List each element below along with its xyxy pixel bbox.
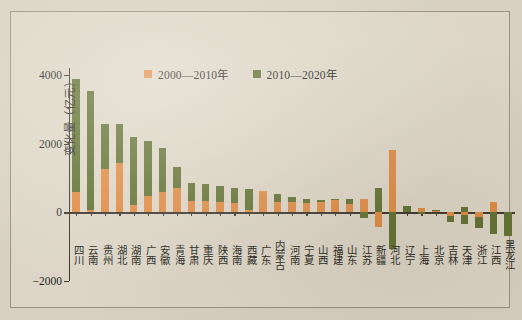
x-axis-category-label: 福建: [328, 226, 342, 284]
bar-segment-2000-2010: [173, 188, 180, 212]
bar-segment-2010-2020: [231, 188, 238, 203]
bar-segment-2010-2020: [346, 199, 353, 203]
bar-segment-2000-2010: [490, 202, 497, 213]
bar-segment-2000-2010: [389, 150, 396, 212]
legend-label: 2010—2020年: [267, 66, 338, 82]
x-axis-category-label: 甘肃: [184, 226, 198, 284]
bar-segment-2000-2010: [245, 210, 252, 212]
bar-segment-2010-2020-negative: [461, 215, 468, 224]
bar-segment-2000-2010: [432, 211, 439, 212]
x-axis-category-label: 新疆: [371, 226, 385, 284]
bar-segment-2000-2010: [274, 202, 281, 213]
bar-segment-2000-2010: [188, 201, 195, 212]
chart-legend: 2000—2010年 2010—2020年: [144, 66, 337, 82]
bar-segment-2010-2020: [188, 183, 195, 201]
x-axis-category-label: 山西: [314, 226, 328, 284]
bar-segment-2010-2020: [173, 167, 180, 188]
bar-segment-2010-2020: [317, 200, 324, 201]
x-axis-category-label: 青海: [170, 226, 184, 284]
x-axis-category-label: 陕西: [213, 226, 227, 284]
x-axis-category-label: 云南: [83, 226, 97, 284]
bar-segment-2010-2020-negative: [418, 212, 425, 213]
bar-segment-2010-2020: [202, 184, 209, 200]
y-axis-title: 变化量（亿元）: [61, 56, 77, 176]
bar-segment-2010-2020: [159, 148, 166, 192]
x-axis-category-label: 重庆: [198, 226, 212, 284]
legend-item-2010-2020: 2010—2020年: [253, 66, 338, 82]
bar-segment-2000-2010: [72, 192, 79, 213]
x-axis-category-label: 吉林: [443, 226, 457, 284]
bar-segment-2000-2010: [346, 204, 353, 213]
bar-segment-2000-2010: [259, 191, 266, 212]
bar-segment-2010-2020: [101, 124, 108, 169]
bar-segment-2010-2020-negative: [447, 216, 454, 221]
bar-segment-2010-2020: [130, 137, 137, 206]
bar-segment-2010-2020: [432, 210, 439, 211]
x-axis-category-label: 天津: [457, 226, 471, 284]
legend-label: 2000—2010年: [158, 66, 229, 82]
x-axis-category-label: 河南: [285, 226, 299, 284]
bar-segment-2000-2010: [87, 210, 94, 213]
x-axis-category-label: 内蒙古: [270, 226, 284, 284]
x-axis-category-label: 安徽: [155, 226, 169, 284]
x-axis-category-label: 江西: [486, 226, 500, 284]
bar-segment-2010-2020-negative: [360, 212, 367, 218]
y-axis-tick-label: 4000: [39, 69, 62, 81]
bar-segment-2010-2020: [144, 141, 151, 196]
y-axis-tick-label: −2000: [33, 275, 63, 287]
bar-segment-2010-2020: [331, 199, 338, 201]
bar-segment-2010-2020: [288, 197, 295, 202]
bar-segment-2000-2010: [231, 203, 238, 212]
x-axis-category-label: 湖北: [112, 226, 126, 284]
bar-segment-2000-2010: [101, 169, 108, 212]
y-axis-tick-label: 0: [56, 206, 62, 218]
legend-item-2000-2010: 2000—2010年: [144, 66, 229, 82]
bar-segment-2010-2020: [216, 186, 223, 202]
x-axis-category-label: 浙江: [472, 226, 486, 284]
bar-segment-2010-2020: [116, 124, 123, 163]
x-axis-category-label: 湖南: [127, 226, 141, 284]
square-swatch-icon: [144, 70, 152, 78]
bar-segment-2000-2010: [303, 203, 310, 213]
x-axis-category-label: 宁夏: [299, 226, 313, 284]
x-axis-category-label: 江苏: [357, 226, 371, 284]
bar-segment-2000-2010: [202, 201, 209, 212]
bar-segment-2010-2020: [274, 194, 281, 202]
bar-segment-2000-2010: [360, 199, 367, 212]
x-axis-category-label: 贵州: [98, 226, 112, 284]
bar-segment-2010-2020: [403, 206, 410, 212]
x-axis-category-label: 广东: [256, 226, 270, 284]
bar-segment-2000-2010: [331, 200, 338, 212]
x-axis-category-label: 河北: [386, 226, 400, 284]
bar-segment-2000-2010: [116, 163, 123, 212]
x-axis-category-label: 辽宁: [400, 226, 414, 284]
bar-segment-2000-2010: [317, 202, 324, 213]
x-axis-category-label: 山东: [342, 226, 356, 284]
x-axis-category-label: 广西: [141, 226, 155, 284]
x-axis-category-label: 北京: [429, 226, 443, 284]
chart-plate: 变化量（亿元） 2000—2010年 2010—2020年 400020000−…: [10, 11, 510, 308]
bar-segment-2010-2020: [303, 199, 310, 202]
x-axis-category-label: 黑龙江: [501, 226, 515, 284]
x-axis-category-label: 海南: [227, 226, 241, 284]
bar-segment-2000-2010-negative: [375, 212, 382, 226]
x-axis-category-label: 四川: [69, 226, 83, 284]
bar-segment-2000-2010: [159, 192, 166, 213]
x-axis-category-labels: 四川云南贵州湖北湖南广西安徽青海甘肃重庆陕西海南西藏广东内蒙古河南宁夏山西福建山…: [69, 226, 515, 288]
y-axis-tick-label: 2000: [39, 138, 62, 150]
x-axis-category-label: 上海: [414, 226, 428, 284]
bar-segment-2010-2020: [245, 189, 252, 211]
chart-figure: 变化量（亿元） 2000—2010年 2010—2020年 400020000−…: [0, 0, 522, 320]
square-swatch-icon: [253, 70, 261, 78]
bar-segment-2000-2010: [130, 205, 137, 212]
bar-segment-2000-2010: [288, 202, 295, 212]
x-axis-category-label: 西藏: [242, 226, 256, 284]
bar-segment-2010-2020: [375, 188, 382, 212]
bar-segment-2010-2020: [87, 91, 94, 210]
bar-segment-2000-2010: [144, 196, 151, 212]
bar-segment-2000-2010: [216, 202, 223, 212]
